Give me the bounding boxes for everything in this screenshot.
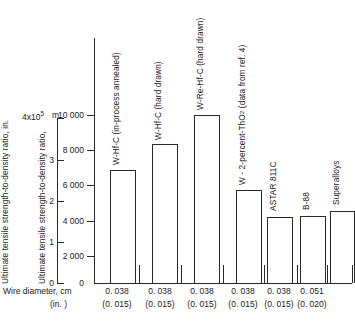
- bar-label-tho2-sub: 2: [238, 111, 245, 115]
- y-label-m-10000: 10 000: [50, 110, 84, 120]
- x-value-in-3: (0. 015): [223, 299, 263, 309]
- x-axis-caption-in: (in. ): [50, 299, 67, 309]
- x-divider-6: [327, 265, 328, 283]
- x-value-in-1: (0. 015): [140, 299, 180, 309]
- bar-w-hf-c-hard-drawn: [152, 144, 178, 283]
- y-tick-in-2: [57, 201, 64, 202]
- bar-label-superalloys: Superalloys: [332, 155, 340, 205]
- y-label-m-8000: 8 000: [50, 145, 84, 155]
- y-tick-m-6000: [87, 185, 94, 186]
- y-label-m-2000: 2 000: [50, 251, 84, 261]
- bar-label-w-re-hf-c-hard-drawn: W-Re-Hf-C (hard drawn): [196, 22, 204, 110]
- bar-label-tho2-post: (data from ref. 4): [237, 45, 247, 111]
- x-value-cm-1: 0. 038: [140, 286, 180, 296]
- bar-label-tho2-pre: W - 2-percent-ThO: [237, 114, 247, 185]
- bar-b-88: [300, 216, 326, 283]
- y-axis-meters-title: Ultimate tensile strength-to-density rat…: [38, 110, 46, 284]
- bar-chart-figure: Ultimate tensile strength-to-density rat…: [0, 0, 355, 323]
- plot-y-axis-spine: [94, 38, 95, 284]
- bar-label-w-hf-c-annealed: W-Hf-C (in-process annealed): [112, 40, 120, 165]
- x-divider-4: [264, 265, 265, 283]
- x-value-cm-5: 0. 051: [292, 286, 332, 296]
- bar-w-hf-c-annealed: [110, 170, 136, 283]
- y-label-m-4000: 4 000: [50, 216, 84, 226]
- x-value-cm-2: 0. 038: [182, 286, 222, 296]
- x-divider-0: [94, 265, 95, 283]
- x-value-in-5: (0. 020): [292, 299, 332, 309]
- x-value-in-2: (0. 015): [182, 299, 222, 309]
- bar-w-2-percent-tho2: [236, 190, 262, 283]
- bar-label-astar-811c: ASTAR 811C: [269, 155, 277, 211]
- bar-w-re-hf-c-hard-drawn: [194, 115, 220, 283]
- bar-label-w-2-percent-tho2: W - 2-percent-ThO2 (data from ref. 4): [238, 30, 246, 185]
- y-axis-inches-title: Ultimate tensile strength-to-density rat…: [1, 98, 9, 284]
- x-divider-3: [223, 265, 224, 283]
- x-divider-1: [139, 265, 140, 283]
- bar-label-b-88: B-88: [302, 180, 310, 210]
- y-tick-in-1: [57, 242, 64, 243]
- x-value-cm-3: 0. 038: [223, 286, 263, 296]
- y-tick-m-4000: [87, 221, 94, 222]
- x-divider-5: [297, 265, 298, 283]
- y-tick-m-8000: [87, 150, 94, 151]
- x-divider-7: [352, 265, 353, 283]
- y-label-m-6000: 6 000: [50, 180, 84, 190]
- y-tick-m-10000: [87, 115, 94, 116]
- y-tick-m-2000: [87, 256, 94, 257]
- x-divider-2: [181, 265, 182, 283]
- x-value-cm-0: 0. 038: [97, 286, 137, 296]
- y-tick-in-3: [57, 160, 64, 161]
- x-value-in-0: (0. 015): [97, 299, 137, 309]
- bar-astar-811c: [267, 217, 293, 283]
- x-axis-caption-cm: Wire diameter, cm: [3, 286, 72, 296]
- plot-x-axis-spine: [94, 283, 352, 284]
- bar-label-w-hf-c-hard-drawn: W-Hf-C (hard drawn): [154, 70, 162, 140]
